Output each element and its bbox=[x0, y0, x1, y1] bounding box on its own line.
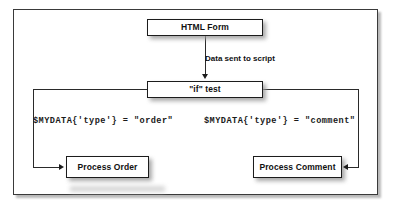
node-html-form-label: HTML Form bbox=[181, 23, 229, 32]
edge-if-to-comment-vertical-segment bbox=[358, 89, 359, 167]
node-process-order-label: Process Order bbox=[78, 163, 138, 172]
scan-artifact bbox=[70, 186, 165, 192]
node-process-order: Process Order bbox=[66, 156, 149, 178]
edge-label-condition-order: $MYDATA{'type'} = "order" bbox=[33, 117, 173, 126]
edge-if-to-comment-entry-segment bbox=[348, 167, 359, 168]
node-if-test: "if" test bbox=[147, 81, 263, 98]
edge-if-to-order-entry-segment bbox=[33, 167, 60, 168]
edge-if-to-comment-top-segment bbox=[263, 89, 359, 90]
edge-if-to-comment-arrowhead bbox=[343, 164, 348, 170]
node-process-comment-label: Process Comment bbox=[259, 163, 335, 172]
edge-if-to-order-vertical-segment bbox=[33, 89, 34, 167]
flowchart-figure: Data sent to script $MYDATA{'type'} = "o… bbox=[0, 0, 393, 217]
node-process-comment: Process Comment bbox=[253, 156, 342, 178]
edge-label-data-sent-to-script: Data sent to script bbox=[205, 55, 275, 63]
node-html-form: HTML Form bbox=[147, 19, 263, 36]
edge-label-condition-comment: $MYDATA{'type'} = "comment" bbox=[204, 117, 355, 126]
node-if-test-label: "if" test bbox=[189, 85, 221, 94]
edge-if-to-order-arrowhead bbox=[59, 164, 64, 170]
edge-if-to-order-top-segment bbox=[33, 89, 147, 90]
edge-form-to-if-arrowhead bbox=[202, 74, 208, 79]
